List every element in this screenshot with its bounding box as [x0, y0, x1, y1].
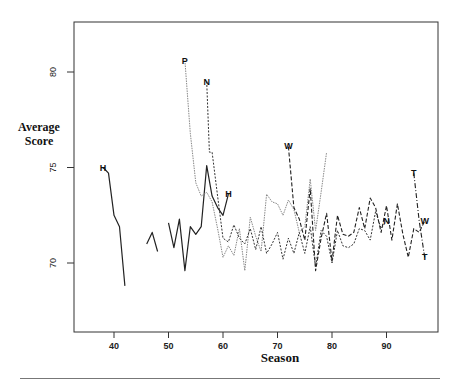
- series-label-H: H: [100, 163, 107, 173]
- page-divider: [20, 378, 440, 379]
- series-line-N: [207, 82, 387, 267]
- series-label-H: H: [225, 189, 232, 199]
- series-label-W: W: [284, 141, 293, 151]
- y-tick-label: 70: [48, 258, 58, 268]
- series-label-P: P: [182, 56, 188, 66]
- series-line-W: [288, 147, 424, 271]
- x-tick-label: 40: [109, 341, 119, 351]
- series-label-T: T: [422, 252, 428, 262]
- x-axis-label: Season: [220, 350, 340, 366]
- plot-frame: [74, 22, 438, 332]
- series-line-H: [103, 168, 125, 286]
- series-line-H: [147, 232, 158, 251]
- x-axis-ticks: 405060708090: [109, 332, 392, 351]
- series-label-T: T: [411, 168, 417, 178]
- y-axis-label-line2: Score: [14, 134, 64, 148]
- line-chart: 707580 405060708090 HHPNNWWTT: [0, 0, 455, 384]
- y-tick-label: 80: [48, 67, 58, 77]
- y-axis-label: Average Score: [14, 120, 64, 148]
- series-label-N: N: [203, 77, 210, 87]
- series-labels: HHPNNWWTT: [100, 56, 430, 263]
- series-label-W: W: [420, 216, 429, 226]
- series-label-N: N: [383, 216, 390, 226]
- series-line-H: [169, 166, 229, 271]
- x-tick-label: 90: [381, 341, 391, 351]
- x-tick-label: 50: [163, 341, 173, 351]
- y-axis-label-line1: Average: [14, 120, 64, 134]
- series-lines: [103, 61, 425, 286]
- y-tick-label: 75: [48, 162, 58, 172]
- y-axis-ticks: 707580: [48, 67, 74, 268]
